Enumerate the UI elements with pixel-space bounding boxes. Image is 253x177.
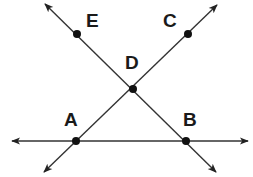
point-a [72,137,80,145]
label-d: D [125,52,139,73]
label-e: E [86,10,99,31]
geometry-diagram: ECDAB [0,0,253,177]
labels-layer: ECDAB [64,10,197,130]
point-d [129,85,137,93]
label-c: C [163,10,177,31]
point-e [73,30,81,38]
point-b [182,137,190,145]
label-b: B [183,109,197,130]
point-c [184,30,192,38]
label-a: A [64,109,78,130]
